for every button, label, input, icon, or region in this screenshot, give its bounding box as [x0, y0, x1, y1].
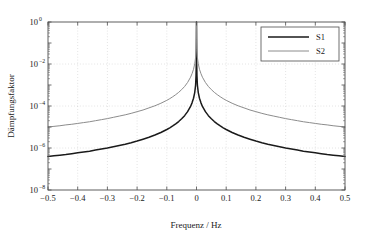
x-tick-label: −0.2 — [129, 193, 144, 203]
y-tick-mantissa: 10 — [30, 17, 39, 27]
x-tick-label: 0.5 — [340, 193, 351, 203]
y-tick-exponent: 0 — [39, 16, 42, 22]
x-tick-label: 0.2 — [251, 193, 262, 203]
y-tick-exponent: −6 — [39, 142, 45, 148]
x-tick-label: −0.1 — [159, 193, 174, 203]
y-tick-exponent: −2 — [39, 58, 45, 64]
x-tick-label: −0.3 — [100, 193, 115, 203]
x-tick-label: −0.4 — [70, 193, 86, 203]
x-tick-label: −0.5 — [40, 193, 55, 203]
y-tick-mantissa: 10 — [30, 185, 39, 195]
y-axis-title: Dämpfungsfaktor — [6, 74, 16, 137]
legend-label-s1: S1 — [316, 32, 325, 42]
y-tick-mantissa: 10 — [30, 143, 39, 153]
x-tick-label: 0.1 — [221, 193, 232, 203]
legend-box — [261, 27, 339, 61]
x-tick-label: 0 — [194, 193, 198, 203]
y-tick-exponent: −8 — [39, 184, 45, 190]
damping-factor-chart: −0.5−0.4−0.3−0.2−0.100.10.20.30.40.5 100… — [0, 0, 366, 233]
y-tick-exponent: −4 — [39, 100, 45, 106]
legend-label-s2: S2 — [316, 46, 325, 56]
y-tick-mantissa: 10 — [30, 101, 39, 111]
chart-legend: S1S2 — [261, 27, 339, 61]
x-axis-title: Frequenz / Hz — [171, 220, 222, 230]
figure-container: −0.5−0.4−0.3−0.2−0.100.10.20.30.40.5 100… — [0, 0, 366, 233]
y-tick-mantissa: 10 — [30, 59, 39, 69]
x-tick-label: 0.3 — [280, 193, 291, 203]
x-tick-label: 0.4 — [310, 193, 321, 203]
